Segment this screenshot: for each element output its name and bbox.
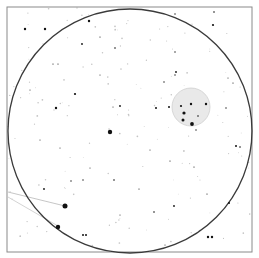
star (211, 236, 213, 238)
faint-star (9, 95, 10, 96)
faint-star (117, 29, 118, 30)
faint-star (209, 51, 210, 52)
star (174, 51, 175, 52)
faint-star (27, 233, 28, 234)
star (100, 75, 101, 76)
star (190, 122, 194, 126)
faint-star (223, 238, 224, 239)
star (55, 107, 57, 109)
star (120, 215, 121, 216)
star (225, 107, 226, 108)
star (168, 106, 170, 108)
faint-star (28, 47, 29, 48)
star (150, 150, 151, 151)
faint-star (65, 188, 66, 189)
star (190, 103, 192, 105)
faint-star (156, 101, 157, 102)
star (173, 205, 175, 207)
star (82, 234, 84, 236)
faint-star (26, 221, 27, 222)
faint-star (119, 218, 120, 219)
faint-star (69, 157, 70, 158)
star (113, 107, 114, 108)
star (163, 81, 164, 82)
star (24, 28, 26, 30)
star (119, 105, 121, 107)
faint-star (173, 179, 174, 180)
faint-star (191, 232, 192, 233)
faint-star (142, 166, 143, 167)
faint-star (119, 133, 121, 135)
faint-star (128, 109, 129, 110)
faint-star (46, 231, 47, 232)
faint-star (118, 219, 119, 220)
star (90, 168, 91, 169)
faint-star (238, 152, 239, 153)
star (85, 234, 87, 236)
star (138, 188, 139, 189)
faint-star (29, 93, 30, 94)
faint-star (42, 43, 43, 44)
star (197, 115, 199, 117)
faint-star (182, 163, 183, 164)
star (182, 119, 185, 122)
faint-star (242, 232, 244, 234)
faint-star (157, 139, 158, 140)
faint-star (94, 26, 96, 28)
faint-star (170, 241, 172, 243)
star (74, 93, 76, 95)
faint-star (186, 72, 188, 74)
faint-star (42, 99, 44, 101)
faint-star (62, 102, 63, 103)
faint-star (178, 194, 179, 195)
star (40, 140, 41, 141)
faint-star (117, 114, 118, 115)
faint-star (159, 28, 160, 29)
faint-star (144, 126, 145, 127)
faint-star (28, 24, 29, 25)
star (193, 166, 194, 167)
faint-star (239, 86, 240, 87)
faint-star (107, 76, 109, 78)
star (182, 111, 185, 114)
faint-star (67, 20, 68, 21)
faint-star (13, 86, 14, 87)
cluster-circle (172, 88, 210, 126)
faint-star (127, 63, 128, 64)
faint-star (228, 136, 229, 137)
faint-star (167, 26, 168, 27)
faint-star (14, 138, 15, 139)
field-of-view-circle (8, 9, 252, 253)
faint-star (171, 76, 172, 77)
faint-star (38, 184, 40, 186)
star (228, 78, 229, 79)
faint-star (197, 176, 198, 177)
star (206, 193, 207, 194)
faint-star (37, 102, 39, 104)
faint-star (102, 52, 103, 53)
star (212, 24, 214, 26)
faint-star (209, 49, 210, 50)
pointer-line (8, 197, 58, 226)
faint-star (127, 144, 128, 145)
faint-star (166, 41, 167, 42)
faint-star (191, 24, 192, 25)
faint-star (249, 213, 251, 215)
faint-star (146, 60, 147, 61)
faint-star (73, 193, 75, 195)
star (207, 236, 209, 238)
faint-star (35, 87, 36, 88)
faint-star (150, 39, 152, 41)
faint-star (120, 68, 122, 70)
star (155, 107, 157, 109)
faint-star (146, 230, 147, 231)
faint-star (188, 135, 189, 136)
faint-star (241, 155, 242, 156)
faint-star (183, 150, 185, 152)
faint-star (225, 72, 226, 73)
stars (24, 11, 241, 245)
faint-star (136, 84, 137, 85)
star (205, 103, 207, 105)
faint-star (88, 14, 89, 15)
faint-star (237, 202, 238, 203)
